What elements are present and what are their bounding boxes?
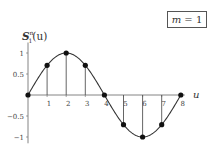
data-point <box>159 122 164 127</box>
x-tick-label: 6 <box>142 100 147 108</box>
data-point <box>64 50 69 55</box>
y-axis-label: Sn1(u) <box>22 29 47 44</box>
x-tick-label: 2 <box>66 100 70 108</box>
x-tick-label: 3 <box>85 100 89 108</box>
legend-equation: = 1 <box>181 14 202 25</box>
y-tick-label: −0.5 <box>7 113 24 121</box>
x-tick-label: 5 <box>123 100 127 108</box>
data-point <box>102 92 107 97</box>
x-tick-label: 1 <box>47 100 51 108</box>
x-tick-label: 8 <box>181 100 185 108</box>
data-point <box>25 92 30 97</box>
data-point <box>178 92 183 97</box>
x-tick-label: 4 <box>104 100 109 108</box>
x-axis-label: u <box>193 89 199 100</box>
legend-variable: m <box>172 14 181 25</box>
data-point <box>45 63 50 68</box>
y-tick-label: 1 <box>20 50 24 58</box>
y-tick-label: −1 <box>14 134 24 142</box>
y-label-argument: (u) <box>32 30 47 42</box>
legend-box: m = 1 <box>167 11 207 28</box>
tick-labels: 1234567810.5−0.5−1 <box>7 50 185 142</box>
data-point <box>83 63 88 68</box>
data-point <box>121 122 126 127</box>
x-tick-label: 7 <box>161 100 165 108</box>
data-point <box>140 134 145 139</box>
y-tick-label: 0.5 <box>13 71 24 79</box>
